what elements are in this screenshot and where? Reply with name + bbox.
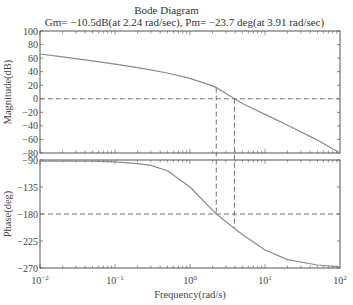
x-tick-label: 10−1	[106, 274, 124, 286]
x-tick-label: 10−2	[31, 274, 49, 286]
y-tick-label: 20	[28, 80, 38, 91]
phase-panel: −90−135−180−225−270Phase(deg)	[2, 155, 340, 274]
response-curve	[40, 54, 340, 153]
y-tick-label: 60	[28, 53, 38, 64]
y-tick-label: 0	[33, 93, 38, 104]
y-tick-label: 80	[28, 39, 38, 50]
y-tick-label: −135	[17, 182, 38, 193]
y-tick-label: −90	[22, 155, 38, 166]
x-tick-label: 100	[183, 274, 197, 286]
plot-frame	[40, 31, 340, 153]
y-tick-label: 100	[23, 26, 38, 37]
magnitude-panel: 100806040200−20−40−60−80Magnitude(dB)	[2, 26, 340, 159]
y-tick-label: −60	[22, 134, 38, 145]
y-tick-label: −40	[22, 120, 38, 131]
y-tick-label: −270	[17, 263, 38, 274]
x-axis-label: Frequency(rad/s)	[154, 289, 226, 301]
bode-plot: 100806040200−20−40−60−80Magnitude(dB)−90…	[0, 0, 353, 305]
y-axis-label: Phase(deg)	[2, 190, 14, 237]
x-tick-label: 102	[333, 274, 347, 286]
x-tick-label: 101	[258, 274, 272, 286]
y-tick-label: −225	[17, 236, 38, 247]
y-tick-label: −20	[22, 107, 38, 118]
y-axis-label: Magnitude(dB)	[2, 59, 14, 124]
y-tick-label: −180	[17, 209, 38, 220]
y-tick-label: 40	[28, 66, 38, 77]
